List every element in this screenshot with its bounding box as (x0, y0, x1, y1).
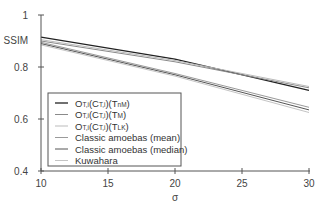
x-tick-label: 30 (303, 178, 315, 189)
legend-label: Classic amoebas (median) (75, 144, 187, 155)
series-line (41, 37, 309, 90)
series-line (41, 40, 309, 87)
legend: OT,i(CT,i)(TnM)OT,i(CT,i)(TM)OT,i(CT,i)(… (48, 93, 187, 166)
x-tick-label: 20 (169, 178, 181, 189)
legend-label: Classic amoebas (mean) (75, 132, 180, 143)
y-tick-label: 0.6 (14, 114, 28, 125)
x-tick-label: 25 (236, 178, 248, 189)
x-axis-label: σ (172, 192, 179, 203)
x-tick-label: 15 (102, 178, 114, 189)
y-tick-label: 0.4 (14, 166, 28, 177)
x-tick-label: 10 (35, 178, 47, 189)
ssim-line-chart: 0.40.60.81 1015202530 SSIM σ OT,i(CT,i)(… (0, 0, 329, 211)
y-tick-label: 1 (22, 10, 28, 21)
y-tick-label: 0.8 (14, 62, 28, 73)
y-axis-label: SSIM (4, 35, 28, 46)
legend-label: Kuwahara (75, 155, 118, 166)
